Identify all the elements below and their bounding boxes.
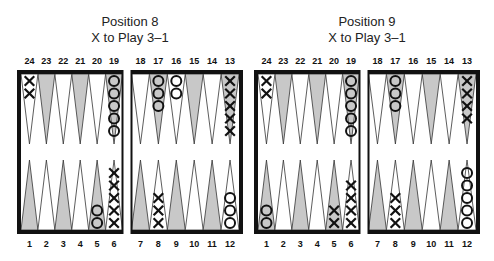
point-label-12: 12	[225, 239, 235, 249]
board-position-9: 241232223214205196187178169151014111312	[254, 56, 480, 249]
point-label-23: 23	[278, 56, 288, 66]
point-label-10: 10	[426, 239, 436, 249]
point-label-9: 9	[411, 239, 416, 249]
point-label-24: 24	[24, 56, 34, 66]
point-label-16: 16	[408, 56, 418, 66]
point-label-3: 3	[61, 239, 66, 249]
bar	[360, 70, 369, 234]
point-label-3: 3	[298, 239, 303, 249]
point-label-12: 12	[462, 239, 472, 249]
backgammon-diagrams: 2412322232142051961871781691510141113122…	[0, 0, 494, 261]
point-label-10: 10	[189, 239, 199, 249]
point-label-1: 1	[27, 239, 32, 249]
point-label-20: 20	[329, 56, 339, 66]
board-position-8: 241232223214205196187178169151014111312	[17, 56, 243, 249]
point-label-4: 4	[315, 239, 320, 249]
point-label-24: 24	[261, 56, 271, 66]
point-label-11: 11	[444, 239, 454, 249]
point-label-21: 21	[312, 56, 322, 66]
point-label-22: 22	[295, 56, 305, 66]
bar	[123, 70, 132, 234]
point-label-19: 19	[346, 56, 356, 66]
point-label-7: 7	[138, 239, 143, 249]
point-label-20: 20	[92, 56, 102, 66]
point-label-11: 11	[207, 239, 217, 249]
point-label-8: 8	[393, 239, 398, 249]
point-label-18: 18	[135, 56, 145, 66]
point-label-14: 14	[207, 56, 217, 66]
point-label-23: 23	[41, 56, 51, 66]
point-label-5: 5	[95, 239, 100, 249]
point-label-17: 17	[390, 56, 400, 66]
point-label-4: 4	[78, 239, 83, 249]
point-label-5: 5	[332, 239, 337, 249]
point-label-13: 13	[462, 56, 472, 66]
point-label-2: 2	[281, 239, 286, 249]
point-label-8: 8	[156, 239, 161, 249]
point-label-7: 7	[375, 239, 380, 249]
point-label-9: 9	[174, 239, 179, 249]
point-label-13: 13	[225, 56, 235, 66]
point-label-16: 16	[171, 56, 181, 66]
point-label-14: 14	[444, 56, 454, 66]
point-label-17: 17	[153, 56, 163, 66]
point-label-15: 15	[426, 56, 436, 66]
point-label-1: 1	[264, 239, 269, 249]
point-label-19: 19	[109, 56, 119, 66]
point-label-21: 21	[75, 56, 85, 66]
point-label-18: 18	[372, 56, 382, 66]
point-label-2: 2	[44, 239, 49, 249]
point-label-15: 15	[189, 56, 199, 66]
point-label-22: 22	[58, 56, 68, 66]
point-label-6: 6	[349, 239, 354, 249]
point-label-6: 6	[112, 239, 117, 249]
